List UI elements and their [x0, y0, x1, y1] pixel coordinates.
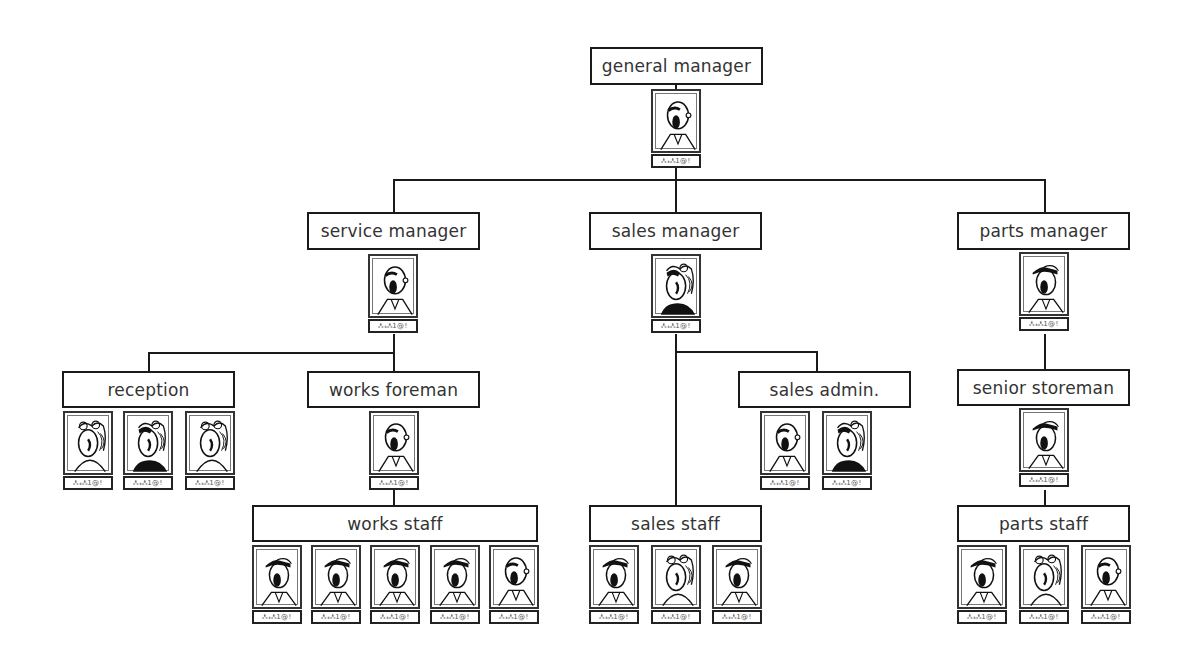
staff-portrait-card: ஃ𝓇ஃ1@!	[185, 411, 235, 491]
nameplate: ஃ𝓇ஃ1@!	[489, 610, 539, 624]
role-sales-manager: sales manager	[589, 212, 762, 250]
staff-portrait-card: ஃ𝓇ஃ1@!	[822, 411, 872, 491]
portrait-frame	[63, 411, 113, 475]
person-woman-dark-icon	[828, 417, 870, 473]
portrait-frame	[1019, 252, 1069, 316]
person-cap-icon	[595, 551, 637, 607]
nameplate: ஃ𝓇ஃ1@!	[760, 476, 810, 490]
staff-portrait-card: ஃ𝓇ஃ1@!	[712, 545, 762, 625]
portrait-frame	[123, 411, 173, 475]
staff-portrait-card: ஃ𝓇ஃ1@!	[311, 545, 361, 625]
staff-portrait-card: ஃ𝓇ஃ1@!	[957, 545, 1007, 625]
role-label: parts staff	[999, 514, 1088, 534]
nameplate: ஃ𝓇ஃ1@!	[712, 610, 762, 624]
connector-line	[675, 351, 818, 353]
person-bald-icon	[375, 417, 417, 473]
person-cap-icon	[436, 551, 478, 607]
portrait-frame	[822, 411, 872, 475]
staff-portrait-card: ஃ𝓇ஃ1@!	[651, 545, 701, 625]
role-service-manager: service manager	[307, 212, 480, 250]
nameplate: ஃ𝓇ஃ1@!	[368, 319, 418, 333]
connector-line	[675, 168, 677, 213]
person-cap-icon	[376, 551, 418, 607]
nameplate: ஃ𝓇ஃ1@!	[370, 610, 420, 624]
portrait-frame	[651, 89, 701, 153]
connector-line	[1044, 334, 1046, 372]
staff-portrait-card: ஃ𝓇ஃ1@!	[63, 411, 113, 491]
staff-portrait-card: ஃ𝓇ஃ1@!	[252, 545, 302, 625]
role-label: senior storeman	[973, 378, 1114, 398]
portrait-frame	[957, 545, 1007, 609]
staff-portrait-card: ஃ𝓇ஃ1@!	[123, 411, 173, 491]
person-woman-dark-icon	[129, 417, 171, 473]
connector-line	[1044, 179, 1046, 213]
role-general-manager: general manager	[590, 47, 763, 85]
role-label: reception	[107, 380, 189, 400]
portrait-frame	[252, 545, 302, 609]
role-works-foreman: works foreman	[307, 371, 480, 408]
connector-line	[148, 352, 395, 354]
nameplate: ஃ𝓇ஃ1@!	[185, 476, 235, 490]
portrait-frame	[651, 254, 701, 318]
person-cap-icon	[317, 551, 359, 607]
role-label: sales manager	[612, 221, 740, 241]
person-cap-icon	[1025, 414, 1067, 470]
staff-portrait-card: ஃ𝓇ஃ1@!	[1081, 545, 1131, 625]
role-label: works foreman	[329, 380, 458, 400]
portrait-frame	[760, 411, 810, 475]
nameplate: ஃ𝓇ஃ1@!	[430, 610, 480, 624]
staff-portrait-card: ஃ𝓇ஃ1@!	[369, 411, 419, 491]
staff-portrait-card: ஃ𝓇ஃ1@!	[651, 89, 701, 169]
nameplate: ஃ𝓇ஃ1@!	[651, 319, 701, 333]
connector-line	[148, 352, 150, 372]
nameplate: ஃ𝓇ஃ1@!	[957, 610, 1007, 624]
nameplate: ஃ𝓇ஃ1@!	[63, 476, 113, 490]
portrait-frame	[185, 411, 235, 475]
person-bald-icon	[495, 551, 537, 607]
role-label: service manager	[321, 221, 467, 241]
portrait-frame	[430, 545, 480, 609]
staff-portrait-card: ஃ𝓇ஃ1@!	[1019, 252, 1069, 332]
connector-line	[393, 179, 395, 213]
role-parts-staff: parts staff	[957, 505, 1130, 542]
role-label: works staff	[347, 514, 443, 534]
nameplate: ஃ𝓇ஃ1@!	[651, 610, 701, 624]
staff-portrait-card: ஃ𝓇ஃ1@!	[1019, 408, 1069, 488]
nameplate: ஃ𝓇ஃ1@!	[589, 610, 639, 624]
org-chart: general manager service manager sales ma…	[0, 0, 1193, 654]
role-sales-admin: sales admin.	[738, 371, 911, 408]
person-woman-icon	[657, 551, 699, 607]
connector-line	[675, 334, 677, 506]
nameplate: ஃ𝓇ஃ1@!	[1019, 317, 1069, 331]
portrait-frame	[1019, 408, 1069, 472]
nameplate: ஃ𝓇ஃ1@!	[369, 476, 419, 490]
staff-portrait-card: ஃ𝓇ஃ1@!	[760, 411, 810, 491]
connector-line	[393, 179, 1046, 181]
nameplate: ஃ𝓇ஃ1@!	[1019, 473, 1069, 487]
person-bald-icon	[766, 417, 808, 473]
connector-line	[816, 351, 818, 372]
connector-line	[393, 490, 395, 506]
person-bald-icon	[657, 95, 699, 151]
role-sales-staff: sales staff	[589, 505, 762, 542]
portrait-frame	[651, 545, 701, 609]
portrait-frame	[589, 545, 639, 609]
staff-portrait-card: ஃ𝓇ஃ1@!	[370, 545, 420, 625]
person-bald-icon	[374, 260, 416, 316]
person-woman-icon	[1025, 551, 1067, 607]
role-parts-manager: parts manager	[957, 212, 1130, 250]
person-cap-icon	[1025, 258, 1067, 314]
role-label: sales admin.	[770, 380, 880, 400]
portrait-frame	[489, 545, 539, 609]
role-senior-storeman: senior storeman	[957, 369, 1130, 406]
role-label: parts manager	[979, 221, 1107, 241]
nameplate: ஃ𝓇ஃ1@!	[651, 154, 701, 168]
nameplate: ஃ𝓇ஃ1@!	[252, 610, 302, 624]
portrait-frame	[712, 545, 762, 609]
portrait-frame	[311, 545, 361, 609]
role-label: general manager	[602, 56, 751, 76]
person-cap-icon	[963, 551, 1005, 607]
person-woman-dark-icon	[657, 260, 699, 316]
portrait-frame	[1019, 545, 1069, 609]
connector-line	[1044, 490, 1046, 506]
